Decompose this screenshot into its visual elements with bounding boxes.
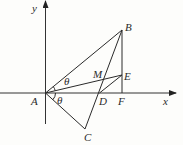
angle-arc-upper [53, 87, 55, 91]
segment-AC [46, 93, 86, 129]
angle-label-theta-lower: θ [57, 94, 63, 106]
angle-label-theta-upper: θ [64, 75, 70, 87]
x-axis-label: x [162, 95, 168, 107]
point-label-M: M [92, 68, 103, 80]
point-label-E: E [123, 70, 131, 82]
point-label-B: B [125, 21, 132, 33]
y-axis-label: y [31, 2, 37, 14]
geometry-diagram: y x A B C D E F M θ θ [0, 0, 183, 145]
point-label-A: A [30, 95, 38, 107]
point-label-F: F [117, 95, 125, 107]
point-label-C: C [84, 131, 92, 143]
point-label-D: D [98, 95, 107, 107]
angle-arc-lower [53, 93, 56, 100]
diagram-svg: y x A B C D E F M θ θ [0, 0, 183, 145]
